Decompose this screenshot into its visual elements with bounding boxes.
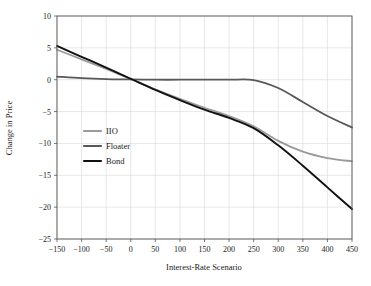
y-tick-label: 0 bbox=[47, 76, 51, 85]
x-tick-label: 150 bbox=[199, 245, 211, 254]
x-tick-label: 350 bbox=[297, 245, 309, 254]
legend-label-bond: Bond bbox=[106, 156, 125, 166]
y-tick-label: 5 bbox=[47, 44, 51, 53]
y-tick-label: −15 bbox=[38, 171, 51, 180]
x-axis-title: Interest-Rate Scenario bbox=[166, 262, 242, 272]
chart-figure: −150−100−50050100150200250300350400450 1… bbox=[0, 0, 371, 286]
line-chart: −150−100−50050100150200250300350400450 1… bbox=[0, 0, 371, 286]
y-tick-label: −5 bbox=[42, 108, 51, 117]
y-tick-label: −25 bbox=[38, 235, 51, 244]
x-tick-label: 250 bbox=[248, 245, 260, 254]
chart-legend: IIOFloaterBond bbox=[84, 126, 130, 166]
y-tick-label: −20 bbox=[38, 203, 51, 212]
x-tick-label: 100 bbox=[174, 245, 186, 254]
x-tick-label: 400 bbox=[321, 245, 333, 254]
y-tick-label: 10 bbox=[43, 12, 51, 21]
x-tick-label: −50 bbox=[100, 245, 113, 254]
legend-label-iio: IIO bbox=[106, 126, 118, 136]
y-axis-title: Change in Price bbox=[4, 101, 14, 156]
legend-label-floater: Floater bbox=[106, 141, 130, 151]
x-tick-label: 200 bbox=[223, 245, 235, 254]
y-axis-ticks: 1050−5−10−15−20−25 bbox=[38, 12, 57, 244]
x-tick-label: 0 bbox=[129, 245, 133, 254]
grid-lines bbox=[57, 16, 352, 239]
x-tick-label: −150 bbox=[49, 245, 66, 254]
x-tick-label: −100 bbox=[73, 245, 90, 254]
x-axis-ticks: −150−100−50050100150200250300350400450 bbox=[49, 239, 358, 254]
x-tick-label: 300 bbox=[272, 245, 284, 254]
y-tick-label: −10 bbox=[38, 139, 51, 148]
x-tick-label: 50 bbox=[151, 245, 159, 254]
x-tick-label: 450 bbox=[346, 245, 358, 254]
figure-caption bbox=[0, 277, 371, 286]
